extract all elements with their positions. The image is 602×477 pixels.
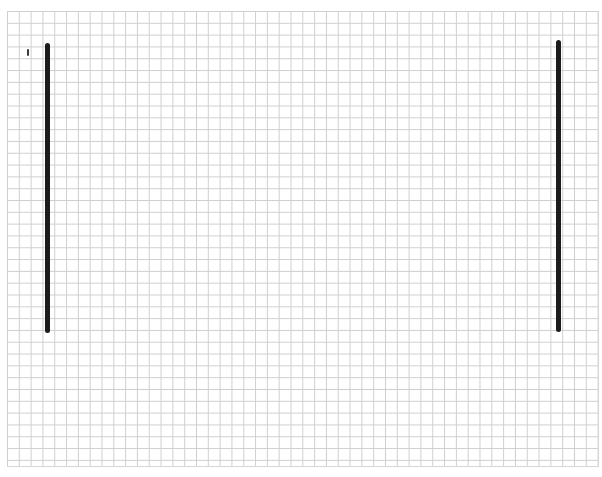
graph-paper-canvas xyxy=(0,0,602,477)
grid-lines xyxy=(7,11,599,467)
left-vertical-bar xyxy=(45,43,50,333)
right-vertical-bar xyxy=(556,40,561,332)
small-tick-mark xyxy=(27,49,29,56)
